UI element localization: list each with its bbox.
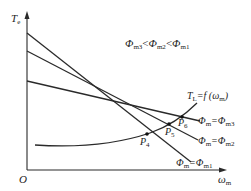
load-label-end: ) — [225, 90, 228, 101]
lbl3-eq: =Φ — [211, 115, 225, 126]
lbl1-sub2: m1 — [203, 162, 212, 170]
line-phi-m3 — [27, 81, 200, 121]
load-curve-label: TL=f (ωm) — [187, 91, 228, 103]
lbl1-phi: Φ — [176, 157, 184, 168]
p6-sub: 6 — [184, 122, 188, 130]
p5-sub: 5 — [171, 131, 175, 139]
torque-speed-diagram: Te O ωm Φm3<Φm2<Φm1 TL=f (ωm) Φm=Φm3 Φm=… — [0, 0, 251, 191]
label-p5: P5 — [165, 127, 175, 139]
label-phi-m3: Φm=Φm3 — [198, 116, 234, 128]
y-axis-label: Te — [11, 13, 20, 26]
y-label-sub: e — [17, 18, 20, 26]
lbl3-phi: Φ — [198, 115, 206, 126]
label-p6: P6 — [178, 118, 188, 130]
rel-sub-c: m1 — [180, 43, 189, 51]
rel-sub-b: m2 — [157, 43, 166, 51]
label-phi-m1: Φm=Φm1 — [176, 158, 212, 170]
x-label-sub: m — [226, 179, 231, 187]
lbl3-sub2: m3 — [225, 120, 234, 128]
lbl1-eq: =Φ — [189, 157, 203, 168]
rel-sub-a: m3 — [133, 43, 142, 51]
rel-phi-b: Φ — [149, 37, 157, 49]
load-label-rest: =f (ω — [197, 90, 219, 101]
x-axis-label: ωm — [218, 174, 231, 187]
label-p4: P4 — [140, 137, 150, 149]
lbl2-phi: Φ — [198, 135, 206, 146]
load-curve — [35, 103, 197, 146]
lbl2-sub2: m2 — [225, 140, 234, 148]
x-axis-arrow-icon — [219, 168, 227, 173]
origin-label: O — [19, 174, 27, 185]
lbl2-eq: =Φ — [211, 135, 225, 146]
x-label-main: ω — [218, 173, 226, 185]
label-phi-m2: Φm=Φm2 — [198, 136, 234, 148]
flux-relation: Φm3<Φm2<Φm1 — [125, 38, 189, 51]
y-axis-arrow-icon — [25, 11, 30, 19]
p4-sub: 4 — [146, 141, 150, 149]
